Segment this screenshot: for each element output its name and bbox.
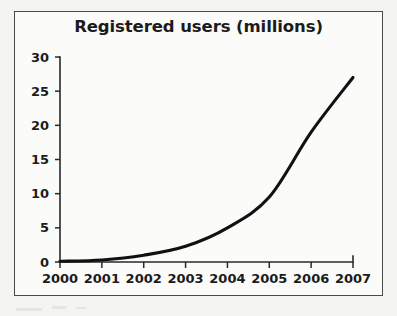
x-tick-label: 2000 [42,271,78,286]
x-tick-label: 2004 [209,271,245,286]
x-tick-label: 2005 [251,271,287,286]
x-axis-tick-labels: 20002001200220032004200520062007 [42,271,371,286]
y-tick-label: 5 [40,220,49,235]
x-tick-label: 2002 [126,271,162,286]
y-tick-label: 20 [31,118,49,133]
chart-axes [60,57,353,262]
x-axis-ticks [60,262,353,268]
y-axis-tick-labels: 051015202530 [31,50,49,270]
figure-page: Registered users (millions) 051015202530… [0,0,397,316]
x-tick-label: 2003 [167,271,203,286]
y-tick-label: 30 [31,50,49,65]
line-chart-plot: 051015202530 200020012002200320042005200… [0,0,397,316]
y-tick-label: 10 [31,186,49,201]
x-tick-label: 2007 [335,271,371,286]
data-series-line [60,78,353,262]
y-tick-label: 15 [31,152,49,167]
x-tick-label: 2006 [293,271,329,286]
x-tick-label: 2001 [84,271,120,286]
y-tick-label: 25 [31,84,49,99]
y-tick-label: 0 [40,255,49,270]
